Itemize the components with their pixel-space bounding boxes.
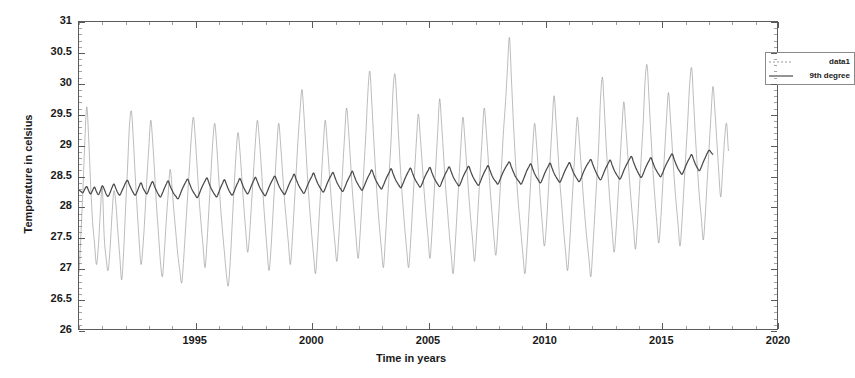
y-minor-tick-mark xyxy=(774,127,777,128)
y-tick-mark xyxy=(771,207,777,208)
x-tick-mark xyxy=(196,323,197,329)
legend-swatch-9th-degree xyxy=(768,71,794,81)
y-minor-tick-mark xyxy=(79,109,82,110)
y-tick-label: 26.5 xyxy=(51,293,72,304)
y-minor-tick-mark xyxy=(79,183,82,184)
y-minor-tick-mark xyxy=(774,220,777,221)
y-tick-mark xyxy=(79,331,85,332)
y-tick-label: 26 xyxy=(60,324,72,335)
y-minor-tick-mark xyxy=(774,139,777,140)
y-tick-label: 29 xyxy=(60,139,72,150)
y-tick-label: 30 xyxy=(60,77,72,88)
y-minor-tick-mark xyxy=(79,232,82,233)
x-minor-tick-mark xyxy=(522,22,523,25)
x-minor-tick-mark xyxy=(382,326,383,329)
y-minor-tick-mark xyxy=(774,319,777,320)
x-minor-tick-mark xyxy=(616,326,617,329)
series-line-data1 xyxy=(79,37,728,286)
y-minor-tick-mark xyxy=(774,189,777,190)
y-minor-tick-mark xyxy=(79,78,82,79)
x-minor-tick-mark xyxy=(639,22,640,25)
y-minor-tick-mark xyxy=(774,109,777,110)
y-minor-tick-mark xyxy=(79,127,82,128)
x-minor-tick-mark xyxy=(79,326,80,329)
y-minor-tick-mark xyxy=(774,312,777,313)
x-tick-label: 2000 xyxy=(299,334,323,346)
x-minor-tick-mark xyxy=(406,22,407,25)
series-line-9th-degree xyxy=(79,150,713,199)
legend-entry-data1: data1 xyxy=(768,55,851,69)
y-minor-tick-mark xyxy=(79,34,82,35)
x-minor-tick-mark xyxy=(172,22,173,25)
y-minor-tick-mark xyxy=(79,41,82,42)
y-minor-tick-mark xyxy=(774,251,777,252)
x-minor-tick-mark xyxy=(452,326,453,329)
x-minor-tick-mark xyxy=(149,22,150,25)
y-minor-tick-mark xyxy=(774,244,777,245)
y-minor-tick-mark xyxy=(774,158,777,159)
y-minor-tick-mark xyxy=(79,195,82,196)
y-tick-mark xyxy=(771,146,777,147)
y-minor-tick-mark xyxy=(774,214,777,215)
y-tick-mark xyxy=(79,207,85,208)
y-minor-tick-mark xyxy=(774,275,777,276)
x-minor-tick-mark xyxy=(732,326,733,329)
x-minor-tick-mark xyxy=(686,22,687,25)
y-axis-tick-labels: 2626.52727.52828.52929.53030.531 xyxy=(0,0,72,378)
x-minor-tick-mark xyxy=(569,326,570,329)
y-minor-tick-mark xyxy=(79,312,82,313)
x-minor-tick-mark xyxy=(266,22,267,25)
x-minor-tick-mark xyxy=(336,22,337,25)
y-minor-tick-mark xyxy=(79,90,82,91)
x-minor-tick-mark xyxy=(126,22,127,25)
y-minor-tick-mark xyxy=(774,96,777,97)
y-tick-mark xyxy=(79,53,85,54)
x-minor-tick-mark xyxy=(359,326,360,329)
x-tick-label: 2020 xyxy=(766,334,790,346)
y-minor-tick-mark xyxy=(79,158,82,159)
y-tick-mark xyxy=(771,269,777,270)
x-minor-tick-mark xyxy=(242,22,243,25)
y-minor-tick-mark xyxy=(774,325,777,326)
x-minor-tick-mark xyxy=(219,326,220,329)
y-tick-mark xyxy=(79,146,85,147)
x-minor-tick-mark xyxy=(382,22,383,25)
x-minor-tick-mark xyxy=(686,326,687,329)
x-tick-mark xyxy=(312,323,313,329)
x-tick-mark xyxy=(429,323,430,329)
y-minor-tick-mark xyxy=(79,47,82,48)
y-minor-tick-mark xyxy=(79,226,82,227)
x-tick-mark xyxy=(662,323,663,329)
y-minor-tick-mark xyxy=(774,102,777,103)
y-minor-tick-mark xyxy=(79,306,82,307)
x-minor-tick-mark xyxy=(732,22,733,25)
y-minor-tick-mark xyxy=(774,170,777,171)
y-minor-tick-mark xyxy=(79,164,82,165)
x-minor-tick-mark xyxy=(219,22,220,25)
x-minor-tick-mark xyxy=(266,326,267,329)
x-minor-tick-mark xyxy=(756,326,757,329)
y-minor-tick-mark xyxy=(774,183,777,184)
x-tick-mark xyxy=(662,22,663,28)
y-tick-mark xyxy=(771,22,777,23)
x-minor-tick-mark xyxy=(79,22,80,25)
x-minor-tick-mark xyxy=(476,326,477,329)
legend-label-data1: data1 xyxy=(794,57,851,67)
y-minor-tick-mark xyxy=(79,257,82,258)
x-minor-tick-mark xyxy=(289,326,290,329)
y-minor-tick-mark xyxy=(79,282,82,283)
x-minor-tick-mark xyxy=(616,22,617,25)
x-tick-mark xyxy=(196,22,197,28)
y-minor-tick-mark xyxy=(79,275,82,276)
legend-label-9th-degree: 9th degree xyxy=(794,71,851,81)
y-minor-tick-mark xyxy=(79,170,82,171)
y-tick-mark xyxy=(771,84,777,85)
x-minor-tick-mark xyxy=(172,326,173,329)
y-minor-tick-mark xyxy=(79,139,82,140)
y-minor-tick-mark xyxy=(774,41,777,42)
y-minor-tick-mark xyxy=(79,133,82,134)
y-minor-tick-mark xyxy=(79,189,82,190)
y-minor-tick-mark xyxy=(79,152,82,153)
legend: data1 9th degree xyxy=(765,52,855,85)
